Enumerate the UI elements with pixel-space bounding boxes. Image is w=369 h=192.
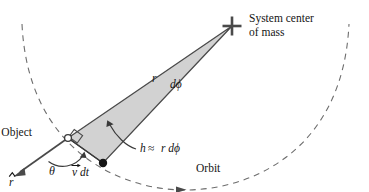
r-hat-arrowhead — [14, 168, 26, 177]
dt-label: dt — [80, 166, 90, 178]
r-hat-symbol-label: r — [9, 176, 14, 188]
system-center-label-line1: System center — [249, 12, 314, 25]
d-phi-label: dϕ — [170, 78, 182, 91]
h-relation-label-group: h ≈ r dϕ — [140, 142, 180, 155]
theta-arc-arrowhead — [80, 152, 87, 158]
object-label: Object — [1, 126, 32, 139]
r-hat-label-group: r — [9, 173, 15, 188]
theta-label: θ — [49, 164, 55, 178]
h-symbol-label: h — [140, 142, 146, 154]
object-open-circle-icon — [65, 135, 72, 142]
system-center-label-line2: of mass — [249, 26, 285, 38]
v-symbol-label: v — [72, 166, 78, 178]
approx-equals-symbol: ≈ — [148, 142, 154, 154]
rdphi-label: r dϕ — [161, 142, 180, 155]
diagram-canvas: System center of mass Object Orbit r dϕ … — [0, 0, 369, 192]
physics-diagram-figure: System center of mass Object Orbit r dϕ … — [0, 0, 369, 192]
swept-position-dot-icon — [99, 159, 107, 167]
orbit-direction-arrowhead — [176, 187, 187, 192]
radius-r-label: r — [152, 72, 157, 84]
v-dt-label-group: v dt — [72, 164, 90, 178]
orbit-label: Orbit — [196, 162, 221, 174]
